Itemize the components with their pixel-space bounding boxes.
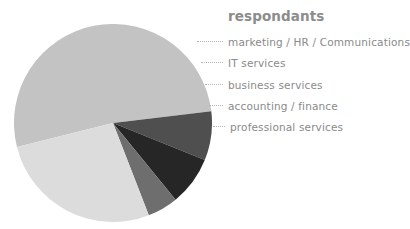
- pie-chart-svg: [14, 24, 212, 222]
- legend-item-accounting-finance: accounting / finance: [209, 99, 338, 113]
- legend-item-business-services: business services: [205, 78, 323, 92]
- chart-container: respondants marketing / HR / Communicati…: [0, 0, 410, 229]
- legend-item-label: business services: [228, 78, 323, 92]
- legend-item-it-services: IT services: [201, 56, 286, 70]
- pie-chart: [14, 24, 212, 222]
- legend-item-label: marketing / HR / Communications: [228, 35, 410, 49]
- legend-item-professional-services: professional services: [213, 120, 343, 134]
- legend-item-marketing-hr-communications: marketing / HR / Communications: [197, 35, 410, 49]
- legend-item-label: IT services: [228, 56, 286, 70]
- legend-item-label: professional services: [230, 120, 343, 134]
- chart-title: respondants: [228, 8, 324, 24]
- leader-line-icon: [213, 126, 225, 128]
- legend-item-label: accounting / finance: [228, 99, 338, 113]
- pie-slice-group: [14, 24, 212, 222]
